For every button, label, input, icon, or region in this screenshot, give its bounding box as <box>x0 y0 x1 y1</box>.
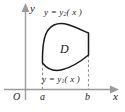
upper-curve-label-suffix: ( x ) <box>67 7 83 17</box>
region-label-D: D <box>60 43 69 55</box>
lower-curve-label-suffix: ( x ) <box>65 74 81 84</box>
origin-label: O <box>13 92 20 102</box>
upper-curve-label-prefix: y = y <box>44 7 64 17</box>
y-axis-label: y <box>30 3 35 14</box>
upper-curve-label: y = y2( x ) <box>44 8 82 18</box>
lower-curve-label: y = y1( x ) <box>42 75 80 85</box>
region-between-curves-figure: y x O a b y = y2( x ) y = y1( x ) D <box>0 0 125 112</box>
tick-label-a: a <box>40 92 45 102</box>
lower-curve-label-prefix: y = y <box>42 74 62 84</box>
x-axis-label: x <box>113 91 118 102</box>
y-axis-arrowhead <box>22 3 30 12</box>
tick-label-b: b <box>85 92 90 102</box>
